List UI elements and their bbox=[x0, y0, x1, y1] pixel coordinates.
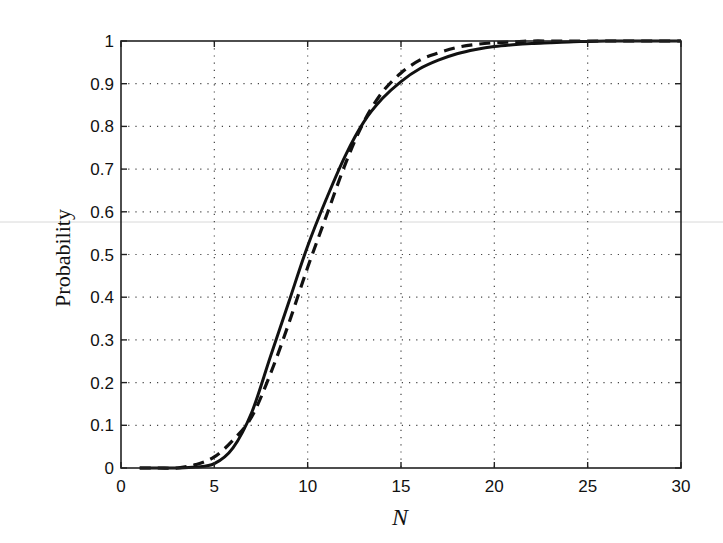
y-tick-label: 0.3 bbox=[90, 331, 114, 350]
solid-series-line bbox=[140, 41, 681, 468]
y-tick-label: 0.4 bbox=[90, 288, 114, 307]
data-series bbox=[140, 41, 681, 468]
y-tick-label: 0 bbox=[105, 459, 114, 478]
y-tick-label: 0.2 bbox=[90, 374, 114, 393]
y-tick-label: 0.9 bbox=[90, 75, 114, 94]
y-tick-label: 1 bbox=[105, 32, 114, 51]
y-axis-tick-labels: 00.10.20.30.40.50.60.70.80.91 bbox=[90, 32, 114, 478]
y-axis-title: Probability bbox=[50, 209, 75, 307]
y-tick-label: 0.1 bbox=[90, 416, 114, 435]
dashed-series-line bbox=[140, 41, 681, 468]
x-tick-label: 0 bbox=[116, 477, 125, 496]
x-tick-label: 10 bbox=[298, 477, 317, 496]
y-tick-label: 0.5 bbox=[90, 246, 114, 265]
x-tick-label: 5 bbox=[210, 477, 219, 496]
grid bbox=[121, 41, 681, 468]
x-tick-label: 20 bbox=[485, 477, 504, 496]
x-tick-label: 15 bbox=[392, 477, 411, 496]
x-axis-title: N bbox=[391, 504, 410, 530]
x-axis-tick-labels: 051015202530 bbox=[116, 477, 690, 496]
y-tick-label: 0.7 bbox=[90, 160, 114, 179]
y-tick-label: 0.8 bbox=[90, 117, 114, 136]
y-tick-label: 0.6 bbox=[90, 203, 114, 222]
x-tick-label: 25 bbox=[578, 477, 597, 496]
x-tick-label: 30 bbox=[672, 477, 691, 496]
probability-chart: 051015202530 00.10.20.30.40.50.60.70.80.… bbox=[0, 0, 723, 543]
